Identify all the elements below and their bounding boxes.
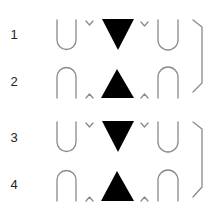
chevron-up-icon bbox=[86, 94, 93, 98]
chevron-down-icon bbox=[86, 21, 93, 25]
chevron-down-icon bbox=[86, 123, 93, 127]
triangle-up-icon bbox=[101, 171, 134, 201]
cap-left-row2 bbox=[57, 68, 76, 99]
triangle-down-icon bbox=[102, 19, 134, 50]
cap-right-row4 bbox=[158, 170, 178, 201]
diagram-canvas bbox=[0, 0, 213, 216]
triangle-down-icon bbox=[102, 121, 134, 152]
cup-left-row1 bbox=[57, 20, 76, 50]
right-bracket-bottom bbox=[193, 122, 202, 197]
triangle-up-icon bbox=[101, 69, 134, 98]
chevron-up-icon bbox=[141, 197, 148, 201]
cap-right-row2 bbox=[158, 67, 178, 98]
cap-left-row4 bbox=[57, 171, 76, 202]
cup-right-row1 bbox=[158, 20, 178, 50]
chevron-down-icon bbox=[141, 22, 148, 26]
right-bracket-top bbox=[193, 20, 202, 92]
chevron-down-icon bbox=[141, 123, 148, 127]
chevron-up-icon bbox=[86, 197, 93, 201]
chevron-up-icon bbox=[141, 94, 148, 98]
cup-right-row3 bbox=[158, 122, 178, 152]
cup-left-row3 bbox=[57, 122, 76, 152]
